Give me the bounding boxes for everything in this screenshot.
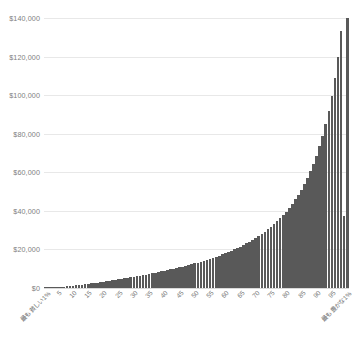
y-axis-tick-label: $20,000 xyxy=(13,245,40,254)
x-axis-tick-label: 65 xyxy=(235,289,245,299)
y-axis-tick-label: $140,000 xyxy=(9,14,40,23)
bar xyxy=(346,18,349,288)
bar-series xyxy=(44,18,349,288)
x-axis-tick-label: 55 xyxy=(205,289,215,299)
x-axis-tick-label: 75 xyxy=(266,289,276,299)
x-axis-tick-label: 90 xyxy=(312,289,322,299)
bar-chart: $140,000$120,000$100,000$80,000$60,000$4… xyxy=(0,0,360,348)
plot-area xyxy=(44,18,349,288)
x-axis-tick-label: 20 xyxy=(98,289,108,299)
x-axis-tick-label: 25 xyxy=(113,289,123,299)
chart-title xyxy=(0,0,360,4)
x-axis-tick-label: 70 xyxy=(251,289,261,299)
x-axis-tick-label: 35 xyxy=(144,289,154,299)
y-axis-tick-label: $0 xyxy=(32,284,40,293)
x-axis-tick-label: 60 xyxy=(220,289,230,299)
x-axis-tick-label: 50 xyxy=(190,289,200,299)
x-axis-tick-label: 85 xyxy=(296,289,306,299)
x-axis-tick-label: 最も貧しい1% xyxy=(17,289,51,323)
x-axis-tick-label: 30 xyxy=(129,289,139,299)
y-axis-tick-label: $120,000 xyxy=(9,52,40,61)
x-axis-tick-label: 5 xyxy=(55,289,63,297)
x-axis-tick-label: 95 xyxy=(327,289,337,299)
y-axis-tick-label: $40,000 xyxy=(13,206,40,215)
x-axis-tick-label: 15 xyxy=(83,289,93,299)
y-axis-tick-label: $100,000 xyxy=(9,91,40,100)
y-axis: $140,000$120,000$100,000$80,000$60,000$4… xyxy=(0,18,44,288)
x-axis-tick-label: 45 xyxy=(174,289,184,299)
x-axis-tick-label: 40 xyxy=(159,289,169,299)
y-axis-tick-label: $80,000 xyxy=(13,129,40,138)
x-axis: 最も貧しい1%510152025303540455055606570758085… xyxy=(44,289,349,348)
x-axis-tick-label: 80 xyxy=(281,289,291,299)
x-axis-tick-label: 10 xyxy=(68,289,78,299)
y-axis-tick-label: $60,000 xyxy=(13,168,40,177)
